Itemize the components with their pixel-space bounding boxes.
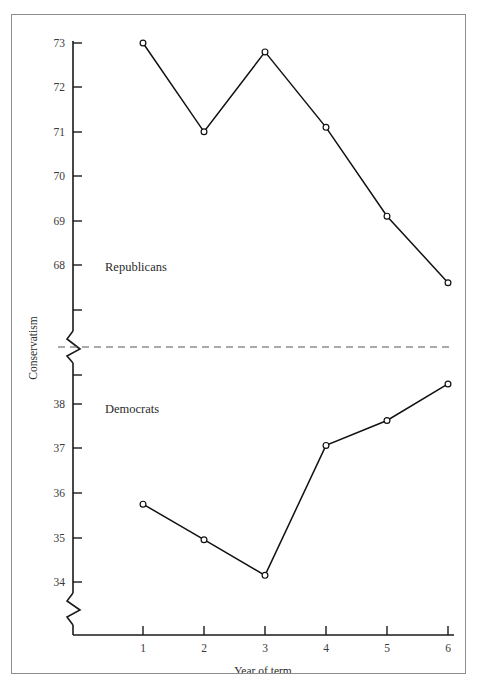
axis-break-lower — [67, 593, 80, 625]
data-point-marker — [323, 442, 329, 448]
data-point-marker — [384, 418, 390, 424]
figure-frame: 73 72 71 70 69 68 38 37 36 35 34 — [11, 14, 466, 674]
series-annotation-democrats: Democrats — [105, 402, 159, 416]
y-ticks-lower: 38 37 36 35 34 — [54, 375, 83, 588]
y-tick-label-37: 37 — [54, 442, 66, 454]
data-point-marker — [323, 124, 329, 130]
republicans-markers — [140, 40, 451, 286]
data-point-marker — [384, 213, 390, 219]
y-tick-label-36: 36 — [54, 487, 66, 499]
x-tick-label-3: 3 — [262, 642, 268, 654]
x-tick-label-4: 4 — [323, 642, 329, 654]
data-point-marker — [262, 572, 268, 578]
x-tick-label-1: 1 — [140, 642, 146, 654]
democrats-line — [143, 384, 448, 575]
y-tick-label-34: 34 — [54, 576, 66, 588]
data-point-marker — [445, 280, 451, 286]
y-ticks-upper: 73 72 71 70 69 68 — [54, 37, 83, 310]
y-tick-label-72: 72 — [54, 81, 66, 93]
conservatism-line-chart: 73 72 71 70 69 68 38 37 36 35 34 — [12, 15, 465, 673]
data-point-marker — [140, 40, 146, 46]
data-point-marker — [201, 129, 207, 135]
series-republicans — [140, 40, 451, 286]
y-tick-label-38: 38 — [54, 398, 66, 410]
data-point-marker — [445, 381, 451, 387]
data-point-marker — [262, 49, 268, 55]
y-tick-label-73: 73 — [54, 37, 66, 49]
x-ticks: 1 2 3 4 5 6 — [140, 626, 451, 654]
y-tick-label-71: 71 — [54, 126, 66, 138]
y-axis-title: Conservatism — [27, 316, 39, 379]
x-tick-label-2: 2 — [201, 642, 207, 654]
x-axis-title: Year of term — [234, 665, 292, 673]
republicans-line — [143, 43, 448, 283]
series-democrats — [140, 381, 451, 578]
y-tick-label-69: 69 — [54, 215, 66, 227]
series-annotation-republicans: Republicans — [105, 260, 167, 274]
y-tick-label-68: 68 — [54, 259, 66, 271]
x-tick-label-6: 6 — [445, 642, 451, 654]
y-tick-label-35: 35 — [54, 532, 66, 544]
data-point-marker — [201, 537, 207, 543]
data-point-marker — [140, 501, 146, 507]
x-tick-label-5: 5 — [384, 642, 390, 654]
y-tick-label-70: 70 — [54, 170, 66, 182]
